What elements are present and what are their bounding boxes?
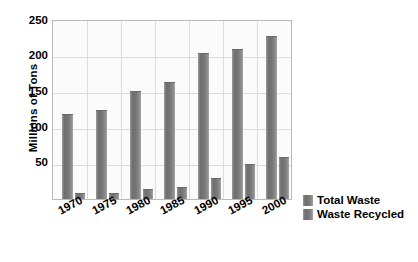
vgridline-6 [257, 21, 258, 199]
plot-area [52, 20, 292, 200]
legend-swatch-waste-recycled [303, 209, 313, 220]
vgridline-2 [121, 21, 122, 199]
bar-total-waste-1990[interactable] [198, 53, 209, 199]
legend-label-total-waste: Total Waste [317, 194, 380, 206]
vgridline-5 [223, 21, 224, 199]
y-tick-label-200: 200 [6, 50, 48, 62]
bar-chart: Millions of Tons 250 200 150 100 50 [0, 0, 418, 262]
vgridline-1 [87, 21, 88, 199]
bar-total-waste-2000[interactable] [266, 36, 277, 199]
legend-item-total-waste[interactable]: Total Waste [303, 194, 404, 206]
legend-swatch-total-waste [303, 195, 313, 206]
legend: Total Waste Waste Recycled [303, 194, 404, 220]
y-tick-label-150: 150 [6, 86, 48, 98]
bar-total-waste-1970[interactable] [62, 114, 73, 199]
bar-total-waste-1980[interactable] [130, 91, 141, 199]
legend-label-waste-recycled: Waste Recycled [317, 208, 404, 220]
bar-total-waste-1975[interactable] [96, 110, 107, 199]
vgridline-4 [189, 21, 190, 199]
bar-total-waste-1985[interactable] [164, 82, 175, 199]
gridline-200 [53, 57, 291, 58]
y-tick-label-250: 250 [6, 15, 48, 27]
vgridline-3 [155, 21, 156, 199]
bar-total-waste-1995[interactable] [232, 49, 243, 199]
bar-waste-recycled-2000[interactable] [279, 157, 289, 199]
y-tick-label-100: 100 [6, 122, 48, 134]
legend-item-waste-recycled[interactable]: Waste Recycled [303, 208, 404, 220]
y-tick-label-50: 50 [6, 157, 48, 169]
